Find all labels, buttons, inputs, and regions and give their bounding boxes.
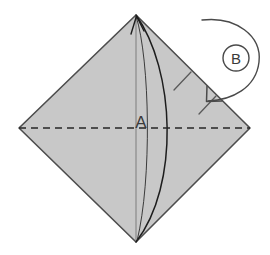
label-a: A: [135, 113, 147, 132]
label-b-badge: B: [223, 45, 249, 71]
origami-diagram: A B: [0, 0, 270, 255]
label-b: B: [231, 50, 241, 67]
origami-canvas: A B: [0, 0, 270, 255]
